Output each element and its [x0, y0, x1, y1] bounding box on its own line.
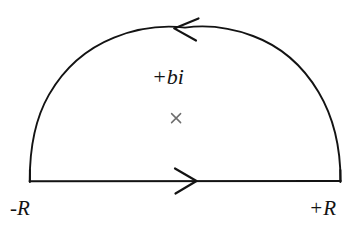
left-endpoint-label: -R	[10, 198, 30, 219]
pole-label: +bi	[152, 66, 184, 88]
right-endpoint-label: +R	[309, 198, 336, 219]
contour-diagram-figure: +bi -R +R	[0, 0, 363, 238]
